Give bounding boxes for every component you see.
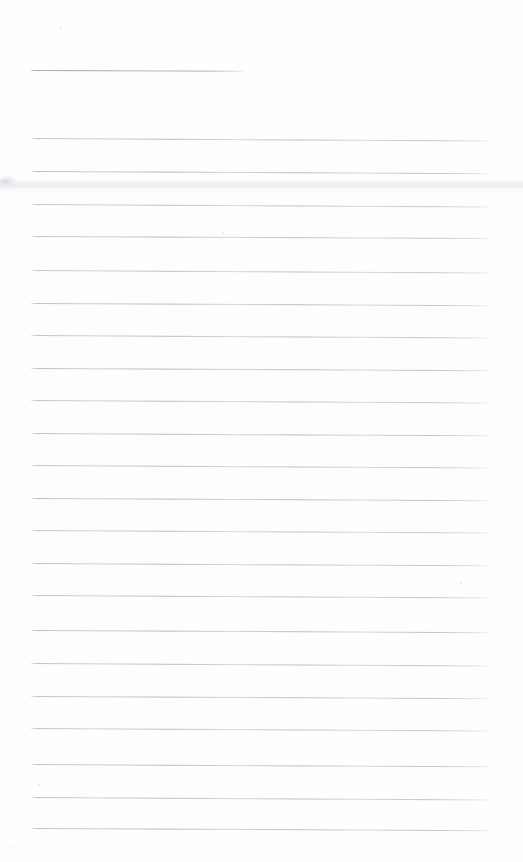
rule-line — [30, 465, 492, 468]
rule-line — [30, 563, 492, 566]
edge-speck-artifact — [0, 176, 17, 187]
title-rule-line — [30, 70, 245, 72]
rule-line — [30, 728, 492, 731]
scan-smudge-artifact — [0, 179, 523, 192]
dust-speck — [38, 784, 40, 786]
rule-line — [30, 236, 492, 239]
rule-line — [30, 595, 492, 598]
rule-line — [30, 270, 492, 273]
dust-speck — [460, 582, 462, 584]
dust-speck — [12, 847, 14, 849]
rule-line — [30, 696, 492, 699]
rule-line — [30, 400, 492, 403]
rule-line — [30, 335, 492, 338]
rule-line — [30, 204, 492, 207]
rule-line — [30, 663, 492, 666]
rule-line — [30, 797, 492, 800]
scanned-page — [0, 0, 523, 862]
dust-speck — [222, 232, 224, 234]
rule-line — [30, 138, 492, 141]
rule-line — [30, 764, 492, 767]
dust-speck — [60, 27, 62, 29]
rule-line — [30, 630, 492, 633]
rule-line — [30, 368, 492, 371]
rule-line — [30, 530, 492, 533]
paper-texture — [0, 0, 523, 862]
rule-line — [30, 171, 492, 174]
dust-speck — [18, 455, 20, 457]
rule-line — [30, 303, 492, 306]
rule-line — [30, 433, 492, 436]
rule-line — [30, 828, 492, 831]
rule-line — [30, 498, 492, 501]
